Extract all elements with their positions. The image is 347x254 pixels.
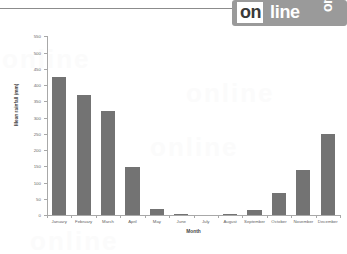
y-axis-tick: 100 bbox=[34, 173, 47, 191]
bar bbox=[223, 214, 237, 215]
x-axis-tick-label: August bbox=[223, 219, 236, 224]
bar bbox=[125, 167, 139, 215]
y-axis-tick-label: 50 bbox=[36, 197, 41, 202]
y-axis-tick-label: 550 bbox=[34, 34, 41, 39]
y-axis-tick-mark bbox=[44, 101, 47, 102]
y-axis-tick-mark bbox=[44, 134, 47, 135]
watermark-text-line: line bbox=[270, 2, 300, 23]
y-axis-tick-label: 150 bbox=[34, 164, 41, 169]
y-axis-tick-mark bbox=[44, 53, 47, 54]
y-axis-tick: 450 bbox=[34, 60, 47, 78]
x-axis-tick-mark bbox=[96, 215, 97, 218]
x-axis-tick-mark bbox=[340, 215, 341, 218]
x-axis-tick-label: November bbox=[293, 219, 313, 224]
x-axis-tick-mark bbox=[267, 215, 268, 218]
y-axis-tick-mark bbox=[44, 118, 47, 119]
y-axis-tick-label: 0 bbox=[39, 213, 41, 218]
x-axis-tick-label: January bbox=[52, 219, 67, 224]
y-axis-tick: 250 bbox=[34, 125, 47, 143]
x-axis-tick-label: October bbox=[271, 219, 286, 224]
x-axis-tick-label: September bbox=[244, 219, 265, 224]
y-axis-tick: 0 bbox=[39, 206, 47, 224]
y-axis-tick-label: 300 bbox=[34, 116, 41, 121]
y-axis-tick-label: 450 bbox=[34, 67, 41, 72]
x-axis-tick-mark bbox=[120, 215, 121, 218]
bar bbox=[272, 193, 286, 215]
x-axis-tick-mark bbox=[145, 215, 146, 218]
bar bbox=[321, 134, 335, 215]
y-axis-tick-label: 100 bbox=[34, 181, 41, 186]
y-axis-tick-label: 400 bbox=[34, 83, 41, 88]
y-axis-tick-label: 200 bbox=[34, 148, 41, 153]
watermark-text-rotated: onl bbox=[319, 0, 335, 12]
x-axis-tick-label: March bbox=[102, 219, 114, 224]
bar bbox=[52, 77, 66, 215]
x-axis-tick-label: December bbox=[318, 219, 338, 224]
header-rule bbox=[0, 8, 238, 9]
y-axis-tick-label: 250 bbox=[34, 132, 41, 137]
x-axis-tick-mark bbox=[242, 215, 243, 218]
y-axis-tick-mark bbox=[44, 199, 47, 200]
y-axis-tick: 350 bbox=[34, 92, 47, 110]
watermark-text-rotated-wrap: onl bbox=[317, 0, 341, 27]
x-axis-tick-mark bbox=[194, 215, 195, 218]
y-axis-tick-mark bbox=[44, 183, 47, 184]
bar bbox=[150, 209, 164, 215]
bar bbox=[101, 111, 115, 215]
y-axis-tick-mark bbox=[44, 150, 47, 151]
x-axis-tick-mark bbox=[218, 215, 219, 218]
y-axis-tick-mark bbox=[44, 36, 47, 37]
x-axis-tick-mark bbox=[291, 215, 292, 218]
bar bbox=[247, 210, 261, 215]
x-axis-tick-mark bbox=[316, 215, 317, 218]
x-axis-tick-label: July bbox=[202, 219, 210, 224]
y-axis-tick-mark bbox=[44, 69, 47, 70]
y-axis-tick: 400 bbox=[34, 76, 47, 94]
y-axis-tick: 550 bbox=[34, 27, 47, 45]
y-axis-tick: 150 bbox=[34, 157, 47, 175]
x-axis-tick-label: May bbox=[153, 219, 161, 224]
y-axis-tick-mark bbox=[44, 85, 47, 86]
x-axis-title: Month bbox=[47, 229, 340, 234]
x-axis-tick-label: February bbox=[75, 219, 92, 224]
plot-area: 050100150200250300350400450500550 Januar… bbox=[47, 36, 340, 215]
bar bbox=[77, 95, 91, 215]
watermark-text-on: on bbox=[237, 2, 263, 23]
x-axis-tick-mark bbox=[47, 215, 48, 218]
y-axis-tick: 500 bbox=[34, 43, 47, 61]
bar bbox=[174, 214, 188, 215]
y-axis-tick-label: 350 bbox=[34, 99, 41, 104]
y-axis-tick: 300 bbox=[34, 108, 47, 126]
x-axis-tick-label: June bbox=[177, 219, 186, 224]
y-axis-tick-label: 500 bbox=[34, 51, 41, 56]
y-axis-tick-mark bbox=[44, 166, 47, 167]
x-axis-tick-mark bbox=[71, 215, 72, 218]
bar-chart-figure: 050100150200250300350400450500550 Januar… bbox=[0, 24, 347, 244]
online-watermark-badge: on line onl bbox=[232, 0, 347, 26]
y-axis-tick: 200 bbox=[34, 141, 47, 159]
x-axis-tick-mark bbox=[169, 215, 170, 218]
x-axis-tick-label: April bbox=[128, 219, 137, 224]
y-axis-title: Mean rainfall (mm) bbox=[14, 84, 19, 126]
y-axis-tick: 50 bbox=[36, 190, 47, 208]
bar bbox=[296, 170, 310, 215]
